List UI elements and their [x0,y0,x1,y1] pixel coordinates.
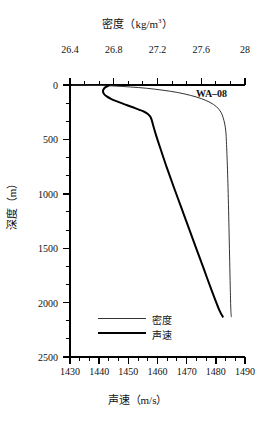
legend-label: 声速 [152,327,172,342]
legend-label: 密度 [152,312,172,327]
plot-area [0,0,275,428]
series-line-声速 [103,85,223,317]
chart-figure: 密度（kg/m3） 声速（m/s） 深度（m） 26.426.827.227.6… [0,0,275,428]
series-annotation: WA–08 [196,88,227,99]
series-layer [72,85,231,317]
legend-lines [98,318,146,333]
